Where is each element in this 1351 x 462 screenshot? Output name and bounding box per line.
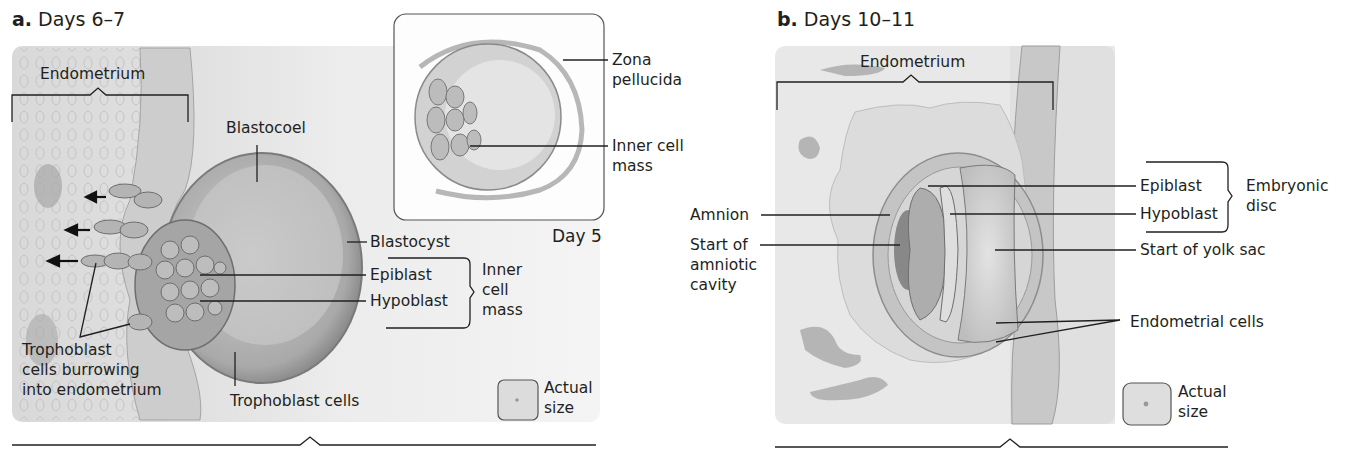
actual-size-dot-a — [515, 398, 519, 402]
actual-size-dot-b — [1144, 402, 1149, 407]
yolk-sac-b — [958, 165, 1018, 342]
actual-size-a-line-1: Actual — [544, 378, 593, 398]
label-epiblast-a: Epiblast — [370, 265, 432, 285]
amniotic-line-1: Start of — [690, 235, 757, 255]
label-amniotic-cavity: Start of amniotic cavity — [690, 235, 757, 295]
panel-b-days: Days 10–11 — [804, 8, 915, 30]
icm-line-2: cell — [482, 280, 523, 300]
label-trophoblast-burrowing: Trophoblast cells burrowing into endomet… — [22, 340, 162, 400]
label-actual-size-b: Actual size — [1178, 382, 1227, 422]
inset-icm-line-1: Inner cell — [612, 136, 684, 156]
label-blastocoel: Blastocoel — [226, 118, 306, 138]
label-blastocyst: Blastocyst — [370, 232, 450, 252]
label-hypoblast-b: Hypoblast — [1140, 204, 1218, 224]
actual-size-b-line-2: size — [1178, 402, 1227, 422]
embryonic-disc-line-2: disc — [1246, 196, 1328, 216]
gland-a1 — [34, 164, 62, 208]
label-amnion: Amnion — [690, 205, 749, 225]
trophoblast-burrowing-line-2: cells burrowing — [22, 360, 162, 380]
icm-line-3: mass — [482, 300, 523, 320]
embryonic-disc-line-1: Embryonic — [1246, 176, 1328, 196]
label-endometrium-b: Endometrium — [860, 52, 965, 72]
amniotic-line-3: cavity — [690, 275, 757, 295]
bottom-bracket-b — [775, 439, 1228, 447]
label-endometrial-cells: Endometrial cells — [1130, 312, 1264, 332]
label-hypoblast-a: Hypoblast — [370, 291, 448, 311]
actual-size-b-line-1: Actual — [1178, 382, 1227, 402]
label-inner-cell-mass-a: Inner cell mass — [482, 260, 523, 320]
actual-size-a-line-2: size — [544, 398, 593, 418]
zona-line-1: Zona — [612, 50, 682, 70]
bottom-bracket-a — [12, 437, 596, 445]
trophoblast-burrowing-line-1: Trophoblast — [22, 340, 162, 360]
label-embryonic-disc: Embryonic disc — [1246, 176, 1328, 216]
label-epiblast-b: Epiblast — [1140, 176, 1202, 196]
label-endometrium-a: Endometrium — [40, 64, 145, 84]
label-inner-cell-mass-inset: Inner cell mass — [612, 136, 684, 176]
label-start-yolk-sac: Start of yolk sac — [1140, 240, 1266, 260]
icm-line-1: Inner — [482, 260, 523, 280]
label-trophoblast-cells: Trophoblast cells — [230, 391, 359, 411]
inset-icm-line-2: mass — [612, 156, 684, 176]
panel-b-title: b.Days 10–11 — [777, 8, 915, 30]
zona-line-2: pellucida — [612, 70, 682, 90]
label-actual-size-a: Actual size — [544, 378, 593, 418]
label-zona-pellucida: Zona pellucida — [612, 50, 682, 90]
panel-b-letter: b. — [777, 8, 798, 30]
trophoblast-burrowing-line-3: into endometrium — [22, 380, 162, 400]
inset-caption-day5: Day 5 — [552, 226, 602, 246]
amniotic-line-2: amniotic — [690, 255, 757, 275]
